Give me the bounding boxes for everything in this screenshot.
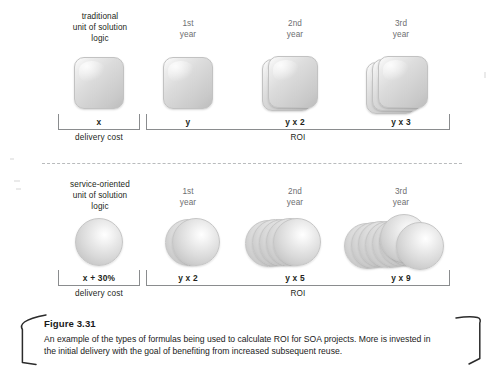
traditional-year-2-cube-2 bbox=[268, 56, 318, 108]
service-oriented-year-1-heading: 1st year bbox=[145, 187, 231, 208]
traditional-year-2-heading-line1: 2nd bbox=[252, 19, 338, 30]
service-oriented-unit-sphere bbox=[75, 218, 123, 266]
figure-number-label: Figure 3.31 bbox=[44, 318, 96, 329]
service-oriented-year-2-sphere-5 bbox=[273, 218, 321, 266]
scan-speck-right bbox=[484, 72, 486, 78]
traditional-roi-label: ROI bbox=[146, 133, 450, 143]
service-oriented-year-1-sphere-2 bbox=[172, 218, 220, 266]
traditional-year-3-heading-line1: 3rd bbox=[358, 19, 444, 30]
service-oriented-year-3-sphere-9 bbox=[396, 222, 444, 270]
traditional-year-1-heading-line1: 1st bbox=[145, 19, 231, 30]
service-oriented-unit-heading: service-oriented unit of solution logic bbox=[40, 180, 160, 212]
service-oriented-year-2-heading: 2nd year bbox=[252, 187, 338, 208]
traditional-unit-heading-line1: traditional bbox=[40, 12, 160, 23]
service-oriented-delivery-cost-label: delivery cost bbox=[56, 289, 142, 299]
service-oriented-unit-heading-line3: logic bbox=[40, 202, 160, 213]
row-divider bbox=[42, 163, 462, 164]
figure-canvas: traditional unit of solution logic 1st y… bbox=[0, 0, 502, 376]
caption-bracket-right-icon bbox=[452, 312, 486, 368]
service-oriented-roi-bracket bbox=[146, 270, 450, 286]
traditional-year-3-heading: 3rd year bbox=[358, 19, 444, 40]
service-oriented-year-2-heading-line1: 2nd bbox=[252, 187, 338, 198]
service-oriented-delivery-bracket bbox=[58, 270, 140, 286]
service-oriented-unit-heading-line2: unit of solution bbox=[40, 191, 160, 202]
traditional-year-3-heading-line2: year bbox=[358, 30, 444, 41]
traditional-delivery-cost-label: delivery cost bbox=[56, 133, 142, 143]
service-oriented-year-3-heading: 3rd year bbox=[358, 187, 444, 208]
figure-caption-line-2: the initial delivery with the goal of be… bbox=[44, 345, 452, 357]
service-oriented-year-1-heading-line1: 1st bbox=[145, 187, 231, 198]
service-oriented-year-3-heading-line1: 3rd bbox=[358, 187, 444, 198]
traditional-unit-cube bbox=[74, 57, 124, 109]
scan-speck-left-c bbox=[10, 158, 14, 160]
traditional-year-2-heading: 2nd year bbox=[252, 19, 338, 40]
service-oriented-year-3-heading-line2: year bbox=[358, 198, 444, 209]
scan-speck-left-a bbox=[14, 180, 20, 182]
service-oriented-roi-label: ROI bbox=[146, 289, 450, 299]
figure-caption-line-1: An example of the types of formulas bein… bbox=[44, 333, 452, 345]
traditional-unit-heading-line2: unit of solution bbox=[40, 23, 160, 34]
traditional-roi-bracket bbox=[146, 114, 450, 130]
traditional-delivery-bracket bbox=[58, 114, 140, 130]
traditional-year-1-cube-1 bbox=[163, 57, 213, 109]
figure-caption: An example of the types of formulas bein… bbox=[44, 333, 452, 357]
traditional-unit-heading: traditional unit of solution logic bbox=[40, 12, 160, 44]
service-oriented-year-2-heading-line2: year bbox=[252, 198, 338, 209]
service-oriented-year-1-heading-line2: year bbox=[145, 198, 231, 209]
traditional-year-2-heading-line2: year bbox=[252, 30, 338, 41]
traditional-year-1-heading: 1st year bbox=[145, 19, 231, 40]
service-oriented-unit-heading-line1: service-oriented bbox=[40, 180, 160, 191]
traditional-unit-heading-line3: logic bbox=[40, 34, 160, 45]
scan-speck-left-b bbox=[16, 188, 21, 190]
traditional-year-1-heading-line2: year bbox=[145, 30, 231, 41]
traditional-year-3-cube-3 bbox=[378, 56, 428, 108]
